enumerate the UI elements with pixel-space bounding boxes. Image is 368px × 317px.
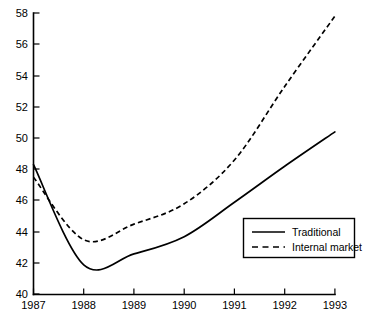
y-label-54: 54 [16, 70, 28, 82]
x-label-1991: 1991 [222, 299, 246, 311]
y-label-46: 46 [16, 194, 28, 206]
x-label-1989: 1989 [122, 299, 146, 311]
line-chart: 58 56 54 52 50 48 46 44 42 40 1987 1988 … [0, 0, 368, 317]
y-label-56: 56 [16, 38, 28, 50]
x-label-1987: 1987 [21, 299, 45, 311]
x-label-1992: 1992 [272, 299, 296, 311]
chart-canvas: 58 56 54 52 50 48 46 44 42 40 1987 1988 … [0, 0, 368, 317]
chart-background [0, 0, 368, 317]
y-label-58: 58 [16, 7, 28, 19]
y-label-44: 44 [16, 226, 28, 238]
legend-label-traditional: Traditional [292, 226, 341, 238]
y-label-52: 52 [16, 101, 28, 113]
y-label-48: 48 [16, 163, 28, 175]
x-label-1990: 1990 [172, 299, 196, 311]
legend-label-internal-market: Internal market [292, 241, 362, 253]
x-label-1993: 1993 [323, 299, 347, 311]
x-label-1988: 1988 [71, 299, 95, 311]
y-label-50: 50 [16, 132, 28, 144]
legend: Traditional Internal market [244, 219, 363, 258]
y-label-42: 42 [16, 257, 28, 269]
